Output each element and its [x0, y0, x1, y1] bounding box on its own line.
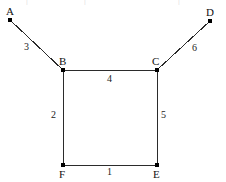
graph-canvas	[0, 0, 226, 182]
vertex-label-a: A	[6, 6, 14, 17]
vertex-label-e: E	[153, 169, 160, 180]
vertex-label-f: F	[59, 169, 65, 180]
graph-node-b	[61, 68, 65, 72]
graph-node-c	[155, 68, 159, 72]
graph-node-a	[8, 18, 12, 22]
vertex-label-b: B	[59, 56, 66, 67]
edge-layer	[10, 20, 210, 165]
edge-weight-label-bf: 2	[51, 110, 56, 120]
graph-edge-ab	[10, 20, 63, 70]
edge-weight-label-cd: 6	[192, 43, 197, 53]
edge-weight-label-bc: 4	[107, 74, 112, 84]
edge-weight-label-fe: 1	[107, 167, 112, 177]
graph-node-d	[208, 19, 212, 23]
graph-edge-cd	[157, 21, 210, 70]
vertex-label-c: C	[152, 56, 159, 67]
edge-weight-label-ab: 3	[24, 42, 29, 52]
vertex-label-d: D	[206, 7, 214, 18]
node-layer	[8, 18, 212, 167]
graph-node-e	[155, 163, 159, 167]
edge-weight-label-ce: 5	[161, 110, 166, 120]
graph-figure: | | | ABCDEF 346251	[0, 0, 226, 182]
graph-node-f	[61, 163, 65, 167]
